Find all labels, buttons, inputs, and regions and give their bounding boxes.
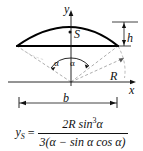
formula-denominator: 3(α − sin α cos α) [38,134,128,150]
segment-diagram: y x S h R b α α [0,0,143,112]
y-axis-label: y [64,3,69,15]
formula-fraction: 2R sin3α 3(α − sin α cos α) [38,116,128,150]
half-angle-right-label: α [70,59,75,68]
formula-equals: = [27,126,36,141]
y-axis-arrowhead [69,10,74,16]
figure-page: y x S h R b α α yS = 2R sin3α 3(α − sin … [0,0,143,151]
chord-label: b [63,92,69,104]
half-angle-left-label: α [54,59,59,68]
circle-guide-arc [118,46,125,78]
height-label: h [127,32,133,44]
formula-numerator: 2R sin3α [59,116,106,133]
h-arrow-bottom [122,40,126,45]
formula-lhs: yS [15,125,24,141]
formula-lhs-subscript: S [21,132,25,141]
centroid-point [69,31,72,34]
b-arrow-right [110,101,116,105]
radius-label: R [110,70,117,82]
x-axis-label: x [129,84,134,96]
centroid-label: S [74,28,80,40]
h-arrow-top [122,23,126,28]
b-arrow-left [20,101,26,105]
centroid-formula: yS = 2R sin3α 3(α − sin α cos α) [0,112,143,151]
segment-arc [17,27,118,46]
numerator-main: 2R sin [62,117,92,131]
diagram-svg [0,0,143,112]
equation-row: yS = 2R sin3α 3(α − sin α cos α) [15,116,127,150]
lower-circle-hint-arc [17,46,45,60]
numerator-tail: α [97,117,103,131]
